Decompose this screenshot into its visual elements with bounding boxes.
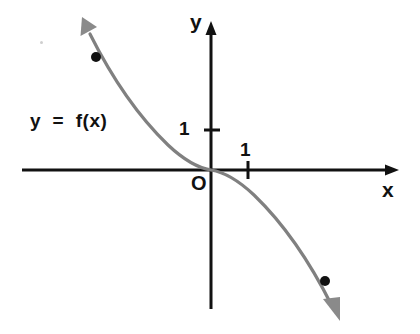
y-axis-tick-label-one: 1 [179,118,190,140]
x-axis-label: x [382,178,394,202]
marked-point-lower [320,276,330,286]
y-axis-label: y [190,10,202,34]
origin-label: O [191,172,207,195]
x-axis-tick-label-one: 1 [240,139,251,161]
function-equation-label: y = f(x) [30,110,107,132]
marked-point-upper [91,52,101,62]
scan-artifact-speck [40,41,43,44]
function-graph-figure [0,0,420,334]
